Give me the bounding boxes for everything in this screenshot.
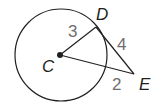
label-cd-length: 3: [68, 22, 77, 41]
segment-de: [96, 27, 134, 74]
segment-cd: [60, 27, 96, 55]
diagram-svg: 3 D 4 C 2 E: [0, 0, 159, 112]
label-point-d: D: [96, 5, 108, 24]
label-point-c: C: [42, 57, 55, 76]
label-point-e: E: [139, 75, 151, 94]
label-de-length: 4: [117, 35, 126, 54]
center-point-c: [57, 52, 63, 58]
label-external-length: 2: [112, 75, 121, 94]
segment-ce: [60, 55, 134, 74]
geometry-diagram: 3 D 4 C 2 E: [0, 0, 159, 112]
